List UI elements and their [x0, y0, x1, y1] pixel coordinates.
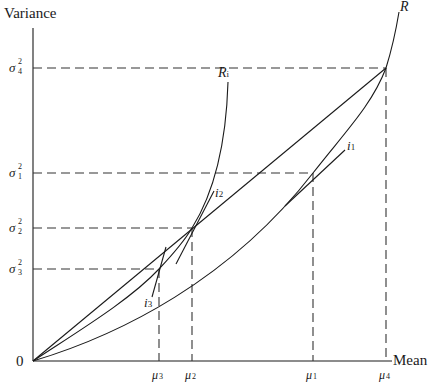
mu-symbol: μ: [306, 368, 312, 382]
superscript: 2: [18, 259, 22, 267]
subscript: 4: [386, 372, 390, 381]
x-tick-mu3: μ3: [152, 369, 163, 381]
origin-label: 0: [16, 354, 24, 369]
mu-symbol: μ: [379, 368, 385, 382]
subscript: 1: [18, 173, 22, 181]
y-tick-sigma3: σ 2 3: [9, 262, 15, 275]
straight-line-origin: [33, 68, 386, 361]
subscript: i: [227, 69, 230, 79]
y-axis-label: Variance: [4, 6, 56, 21]
mu-symbol: μ: [152, 368, 158, 382]
superscript: 2: [18, 58, 22, 66]
curve-label-Ri: Ri: [218, 66, 229, 80]
tangent-label-i3: i3: [144, 296, 152, 309]
curve-label-R: R: [400, 0, 409, 14]
tangent-label-i2: i2: [215, 186, 223, 199]
sigma-symbol: σ: [9, 165, 15, 180]
x-tick-mu2: μ2: [185, 369, 196, 381]
y-tick-sigma2: σ 2 2: [9, 221, 15, 234]
curve-symbol: R: [218, 65, 227, 80]
tangent-label-i1: i1: [347, 139, 355, 152]
x-tick-mu1: μ1: [306, 369, 317, 381]
subscript: 3: [148, 299, 153, 309]
subscript: 4: [18, 68, 22, 76]
subscript: 2: [192, 372, 196, 381]
subscript: 2: [219, 189, 224, 199]
x-tick-mu4: μ4: [379, 369, 390, 381]
tangent-i1: [285, 150, 345, 206]
subscript: 3: [18, 269, 22, 277]
sigma-symbol: σ: [9, 60, 15, 75]
curve-symbol: R: [400, 0, 409, 14]
subscript: 2: [18, 228, 22, 236]
sigma-symbol: σ: [9, 261, 15, 276]
x-axis-label: Mean: [393, 353, 427, 368]
subscript: 1: [313, 372, 317, 381]
mu-symbol: μ: [185, 368, 191, 382]
subscript: 1: [351, 142, 356, 152]
sigma-symbol: σ: [9, 220, 15, 235]
y-tick-sigma4: σ 2 4: [9, 61, 15, 74]
curve-Ri: [33, 82, 228, 361]
superscript: 2: [18, 163, 22, 171]
superscript: 2: [18, 218, 22, 226]
y-tick-sigma1: σ 2 1: [9, 166, 15, 179]
subscript: 3: [159, 372, 163, 381]
